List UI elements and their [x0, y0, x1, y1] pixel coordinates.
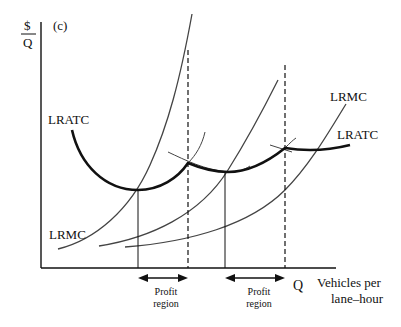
lratc-left-label: LRATC	[48, 112, 89, 128]
x-axis-symbol: Q	[293, 278, 303, 294]
y-axis-label-numerator: $	[24, 18, 31, 34]
x-axis-label-line2: lane–hour	[331, 291, 383, 307]
cost-curves-diagram: $ Q (c) LRATC LRMC LRMC LRATC Profit reg…	[0, 0, 401, 327]
profit-region-label-2: Profit region	[239, 286, 279, 310]
profit-region-2-line1: Profit	[239, 286, 279, 298]
profit-region-label-1: Profit region	[146, 286, 186, 310]
srac-curve-3-upper	[285, 138, 296, 148]
profit-region-arrow-2	[225, 274, 285, 282]
panel-label: (c)	[53, 18, 67, 34]
lratc-curve	[72, 130, 350, 190]
lrmc-left-label: LRMC	[49, 227, 86, 243]
lrmc-right-label: LRMC	[330, 89, 367, 105]
lratc-right-label: LRATC	[337, 127, 378, 143]
profit-region-1-line1: Profit	[146, 286, 186, 298]
srmc-curve-3	[125, 104, 346, 247]
x-axis-label-line1: Vehicles per	[317, 275, 381, 291]
profit-region-1-line2: region	[146, 298, 186, 310]
profit-region-2-line2: region	[239, 298, 279, 310]
srac-curve-2-upper	[188, 132, 205, 163]
y-axis-label-denominator: Q	[23, 35, 32, 51]
srmc-curve-1	[58, 14, 192, 249]
profit-region-arrow-1	[138, 274, 188, 282]
